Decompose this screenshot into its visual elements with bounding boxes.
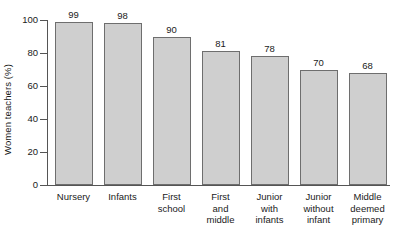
y-axis-tick-label: 40: [0, 114, 38, 124]
x-axis-category-label-line: middle: [193, 214, 249, 226]
x-axis-category-label-line: Middle: [340, 191, 393, 203]
bar-value-label: 78: [243, 43, 297, 54]
x-axis-category-label-line: Nursery: [46, 191, 102, 203]
x-axis-category-label-line: without: [291, 203, 347, 215]
bar-value-label: 98: [96, 10, 150, 21]
bar: [55, 22, 93, 185]
bar-group: 70: [300, 20, 338, 185]
bar-group: 78: [251, 20, 289, 185]
bar-chart-figure: Women teachers (%) 020406080100 99989081…: [0, 0, 393, 239]
bar: [153, 37, 191, 186]
x-axis-category-label-line: Junior: [242, 191, 298, 203]
bar-value-label: 70: [292, 57, 346, 68]
bar-group: 81: [202, 20, 240, 185]
bar: [202, 51, 240, 185]
bar-value-label: 68: [341, 60, 393, 71]
bar: [251, 56, 289, 185]
x-axis-category-label-line: school: [144, 203, 200, 215]
plot-area: 99989081787068: [47, 20, 390, 185]
bar-group: 90: [153, 20, 191, 185]
bar-group: 98: [104, 20, 142, 185]
bar: [104, 23, 142, 185]
bar-value-label: 99: [47, 9, 101, 20]
x-axis-category-label-line: infant: [291, 214, 347, 226]
x-axis-category-label-line: with: [242, 203, 298, 215]
x-axis-category-label: Infants: [95, 191, 151, 203]
x-axis-category-label: Juniorwithinfants: [242, 191, 298, 226]
bar: [300, 70, 338, 186]
y-axis-tick-mark: [40, 53, 47, 54]
y-axis-tick-label: 100: [0, 15, 38, 25]
x-axis-category-label-line: and: [193, 203, 249, 215]
x-axis-category-label: Firstschool: [144, 191, 200, 214]
y-axis-tick-label: 20: [0, 147, 38, 157]
bar-group: 99: [55, 20, 93, 185]
x-axis-category-label-line: First: [193, 191, 249, 203]
x-axis-category-label-line: deemed: [340, 203, 393, 215]
y-axis-tick-label: 80: [0, 48, 38, 58]
x-axis-category-label: Nursery: [46, 191, 102, 203]
bar-value-label: 90: [145, 24, 199, 35]
x-axis-category-label-line: Infants: [95, 191, 151, 203]
x-axis-category-label-line: infants: [242, 214, 298, 226]
bar-group: 68: [349, 20, 387, 185]
y-axis-tick-mark: [40, 119, 47, 120]
y-axis-tick-mark: [40, 185, 47, 186]
x-axis-line: [47, 185, 390, 186]
bar: [349, 73, 387, 185]
x-axis-category-label: Middledeemedprimary: [340, 191, 393, 226]
bar-value-label: 81: [194, 38, 248, 49]
x-axis-category-label-line: First: [144, 191, 200, 203]
x-axis-category-label-line: Junior: [291, 191, 347, 203]
x-axis-category-label-line: primary: [340, 214, 393, 226]
x-axis-category-label: Firstandmiddle: [193, 191, 249, 226]
y-axis-tick-label: 0: [0, 180, 38, 190]
x-axis-category-label: Juniorwithoutinfant: [291, 191, 347, 226]
y-axis-tick-mark: [40, 20, 47, 21]
y-axis-tick-mark: [40, 152, 47, 153]
y-axis-tick-mark: [40, 86, 47, 87]
y-axis-tick-label: 60: [0, 81, 38, 91]
